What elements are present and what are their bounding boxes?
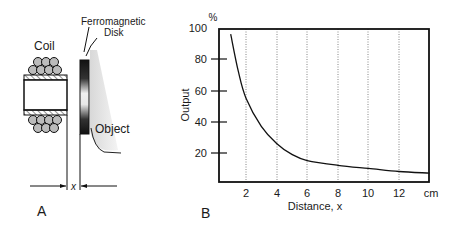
object-label: Object bbox=[95, 122, 130, 136]
coil-core-bottom bbox=[24, 110, 67, 115]
y-tick-40: 40 bbox=[195, 116, 207, 128]
disk-leader-line bbox=[84, 27, 89, 52]
vertical-gridlines bbox=[246, 29, 399, 182]
plot-frame bbox=[219, 29, 429, 182]
y-tick-100: 100 bbox=[189, 22, 207, 34]
x-tick-6: 6 bbox=[304, 187, 310, 199]
panel-b-label: B bbox=[201, 205, 210, 221]
x-tick-4: 4 bbox=[274, 187, 280, 199]
figure-canvas: Coil Ferromagnetic Disk Object bbox=[0, 0, 457, 232]
x-axis-label: Distance, x bbox=[288, 200, 343, 212]
panel-a-label: A bbox=[37, 203, 47, 219]
x-tick-2: 2 bbox=[243, 187, 249, 199]
ferromagnetic-disk bbox=[80, 60, 89, 134]
arrowhead-left bbox=[60, 184, 66, 188]
x-tick-12: 12 bbox=[393, 187, 405, 199]
coil bbox=[24, 58, 67, 133]
disk-label-line1: Ferromagnetic bbox=[81, 16, 145, 27]
y-tick-60: 60 bbox=[195, 85, 207, 97]
disk-label-line2: Disk bbox=[104, 27, 124, 38]
arrowhead-right bbox=[81, 184, 87, 188]
x-tick-8: 8 bbox=[335, 187, 341, 199]
coil-windings-top bbox=[29, 58, 62, 75]
panel-b-chart: 100 80 60 40 20 % Output 2 4 6 8 10 12 c… bbox=[179, 12, 438, 221]
coil-label: Coil bbox=[34, 39, 55, 53]
coil-bore bbox=[24, 80, 67, 110]
y-axis-label: Output bbox=[179, 88, 191, 121]
y-tick-80: 80 bbox=[195, 53, 207, 65]
distance-x-label: x bbox=[70, 181, 77, 192]
output-curve bbox=[231, 34, 430, 173]
x-unit-label: cm bbox=[424, 187, 439, 199]
panel-a: Coil Ferromagnetic Disk Object bbox=[24, 16, 145, 219]
coil-windings-bottom bbox=[29, 116, 62, 133]
x-tick-10: 10 bbox=[362, 187, 374, 199]
y-unit-label: % bbox=[209, 12, 218, 23]
y-tick-20: 20 bbox=[195, 147, 207, 159]
